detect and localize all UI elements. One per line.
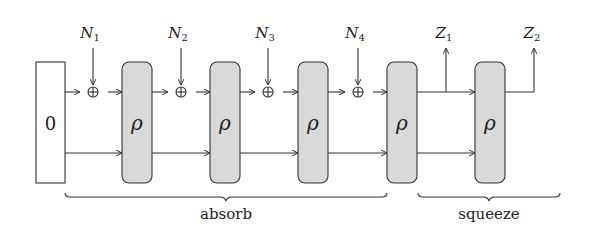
permutation-label: ρ bbox=[306, 111, 319, 135]
permutation-label: ρ bbox=[130, 111, 143, 135]
xor-node-3 bbox=[263, 87, 273, 97]
absorb-brace bbox=[65, 193, 387, 201]
permutation-5: ρ bbox=[475, 62, 505, 183]
input-label-n3: N3 bbox=[254, 24, 275, 43]
permutation-3: ρ bbox=[298, 62, 328, 183]
phase-label-absorb: absorb bbox=[200, 205, 252, 223]
input-label-n1: N1 bbox=[79, 24, 100, 43]
input-label-n2: N2 bbox=[167, 24, 188, 43]
initial-state-label: 0 bbox=[45, 113, 56, 134]
input-label-n4: N4 bbox=[344, 24, 365, 43]
permutation-1: ρ bbox=[122, 62, 152, 183]
permutation-label: ρ bbox=[395, 111, 408, 135]
squeeze-brace bbox=[418, 193, 560, 201]
permutation-label: ρ bbox=[218, 111, 231, 135]
permutation-label: ρ bbox=[483, 111, 496, 135]
permutation-4: ρ bbox=[387, 62, 417, 183]
initial-state-box: 0 bbox=[36, 62, 65, 183]
sponge-diagram: 0 ρ ρ ρ ρ ρ bbox=[0, 0, 593, 233]
output-label-z2: Z2 bbox=[523, 24, 541, 43]
phase-label-squeeze: squeeze bbox=[458, 205, 520, 223]
output-label-z1: Z1 bbox=[435, 24, 453, 43]
xor-node-4 bbox=[353, 87, 363, 97]
permutation-2: ρ bbox=[210, 62, 240, 183]
xor-node-2 bbox=[176, 87, 186, 97]
xor-node-1 bbox=[88, 87, 98, 97]
